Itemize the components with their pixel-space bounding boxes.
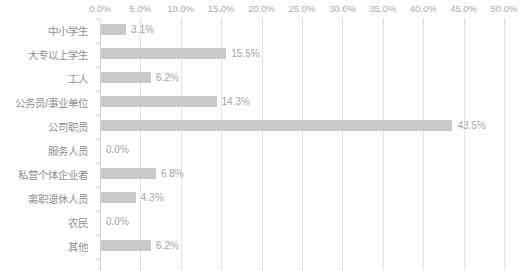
bar-value-label: 6.2% [156, 240, 179, 251]
category-label: 大专以上学生 [28, 43, 88, 67]
y-tick-mark [96, 211, 100, 212]
x-tick-mark [221, 19, 222, 23]
category-label: 农民 [68, 211, 88, 235]
y-tick-mark [96, 43, 100, 44]
x-tick-mark [464, 19, 465, 23]
x-tick-mark [262, 19, 263, 23]
bar-value-label: 0.0% [106, 216, 129, 227]
bar [101, 168, 156, 179]
x-tick-mark [140, 19, 141, 23]
bar [101, 96, 217, 107]
x-tick-label: 5.0% [130, 3, 152, 14]
category-labels: 中小学生大专以上学生工人公务员/事业单位公司职员服务人员私营个体企业者离职退休人… [0, 19, 100, 271]
y-tick-mark [96, 19, 100, 20]
x-tick-mark [342, 19, 343, 23]
gridline [342, 19, 343, 271]
gridline [504, 19, 505, 271]
bar [101, 72, 151, 83]
y-tick-mark [96, 235, 100, 236]
x-tick-label: 10.0% [167, 3, 194, 14]
y-tick-mark [96, 67, 100, 68]
bar-value-label: 6.8% [161, 168, 184, 179]
x-tick-label: 50.0% [491, 3, 518, 14]
category-label: 中小学生 [48, 19, 88, 43]
gridline [302, 19, 303, 271]
y-tick-mark [96, 187, 100, 188]
category-label: 离职退休人员 [28, 187, 88, 211]
y-tick-mark [96, 91, 100, 92]
x-tick-mark [383, 19, 384, 23]
category-label: 其他 [68, 235, 88, 259]
x-tick-label: 30.0% [329, 3, 356, 14]
x-tick-label: 40.0% [410, 3, 437, 14]
category-label: 工人 [68, 67, 88, 91]
x-tick-mark [181, 19, 182, 23]
y-tick-mark [96, 139, 100, 140]
gridline [423, 19, 424, 271]
bar [101, 48, 226, 59]
x-tick-label: 35.0% [369, 3, 396, 14]
bar-value-label: 3.1% [131, 24, 154, 35]
x-tick-mark [504, 19, 505, 23]
bar-value-label: 0.0% [106, 144, 129, 155]
y-tick-mark [96, 163, 100, 164]
x-tick-mark [302, 19, 303, 23]
x-tick-label: 20.0% [248, 3, 275, 14]
bar-value-label: 4.3% [141, 192, 164, 203]
bar [101, 192, 136, 203]
category-label: 私营个体企业者 [18, 163, 88, 187]
bar-value-label: 43.5% [457, 120, 485, 131]
bar-chart: 0.0%5.0%10.0%15.0%20.0%25.0%30.0%35.0%40… [0, 0, 525, 271]
x-tick-mark [423, 19, 424, 23]
category-label: 公务员/事业单位 [15, 91, 88, 115]
y-tick-mark [96, 259, 100, 260]
bar-value-label: 14.3% [222, 96, 250, 107]
bar-value-label: 6.2% [156, 72, 179, 83]
gridline [262, 19, 263, 271]
x-tick-label: 0.0% [89, 3, 111, 14]
category-label: 服务人员 [48, 139, 88, 163]
category-label: 公司职员 [48, 115, 88, 139]
x-tick-label: 15.0% [208, 3, 235, 14]
bar [101, 120, 452, 131]
x-axis-tick-labels: 0.0%5.0%10.0%15.0%20.0%25.0%30.0%35.0%40… [0, 0, 525, 19]
bar [101, 240, 151, 251]
gridline [383, 19, 384, 271]
x-tick-label: 45.0% [450, 3, 477, 14]
bar-value-label: 15.5% [231, 48, 259, 59]
x-tick-label: 25.0% [289, 3, 316, 14]
y-tick-mark [96, 115, 100, 116]
bar [101, 24, 126, 35]
plot-area: 3.1%15.5%6.2%14.3%43.5%0.0%6.8%4.3%0.0%6… [100, 19, 504, 271]
gridline [464, 19, 465, 271]
